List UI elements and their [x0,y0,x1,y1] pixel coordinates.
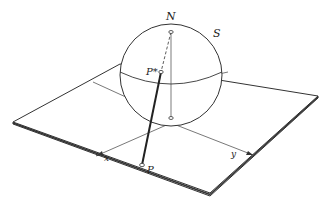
label-point-on-sphere: P* [145,66,158,77]
label-sphere: S [213,27,221,40]
north-pole-point [169,31,173,34]
point-on-plane [140,163,145,166]
contact-point [169,117,173,120]
label-y-axis: y [230,149,237,159]
label-point-on-plane: P [146,164,154,175]
point-on-sphere [159,70,163,73]
stereographic-projection-diagram: N S P* P x y [0,0,327,206]
label-x-axis: x [104,153,109,163]
label-north-pole: N [165,10,176,23]
